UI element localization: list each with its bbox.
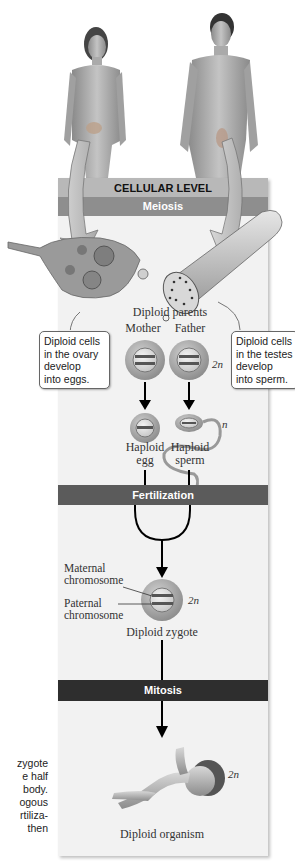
side-caption-fragment: zygote e half body. ogous rtiliza- then — [17, 757, 48, 835]
paternal-label-line1: Paternal — [64, 597, 123, 609]
maternal-label-line1: Maternal — [64, 562, 123, 574]
diploid-zygote-icon — [141, 579, 183, 621]
egg-label-line2: egg — [120, 454, 170, 467]
side-caption-line: ogous — [17, 796, 48, 809]
ovary-illustration — [8, 237, 148, 298]
father-diploid-cell-icon — [169, 340, 209, 380]
maternal-chromosome-label: Maternal chromosome — [64, 562, 123, 586]
diploid-organism-label: Diploid organism — [112, 827, 212, 842]
arrow-down-icon — [183, 400, 195, 410]
haploid-egg-icon — [130, 413, 160, 443]
arrow-down-icon — [156, 726, 168, 738]
arrow-down-icon — [139, 400, 151, 410]
mitosis-banner: Mitosis — [58, 680, 268, 701]
haploid-egg-label: Haploid egg — [120, 441, 170, 467]
gamete-ploidy-label: n — [222, 418, 228, 430]
mother-diploid-cell-icon — [125, 340, 165, 380]
infant-illustration — [100, 745, 240, 815]
side-caption-line: body. — [17, 783, 48, 796]
zygote-ploidy-label: 2n — [188, 594, 199, 606]
side-caption-line: zygote — [17, 757, 48, 770]
haploid-sperm-label: Haploid sperm — [165, 441, 215, 467]
side-caption-line: then — [17, 822, 48, 835]
paternal-label-line2: chromosome — [64, 609, 123, 621]
side-caption-line: rtiliza- — [17, 809, 48, 822]
sperm-label-line2: sperm — [165, 454, 215, 467]
arrow-down-icon — [156, 567, 168, 578]
diploid-zygote-label: Diploid zygote — [112, 625, 212, 640]
organism-ploidy-label: 2n — [228, 768, 239, 780]
diploid-parents-title: Diploid parents — [120, 305, 220, 320]
side-caption-line: e half — [17, 770, 48, 783]
maternal-label-line2: chromosome — [64, 574, 123, 586]
fertilization-banner: Fertilization — [58, 485, 268, 505]
organ-illustrations — [0, 130, 295, 330]
paternal-chromosome-label: Paternal chromosome — [64, 597, 123, 621]
